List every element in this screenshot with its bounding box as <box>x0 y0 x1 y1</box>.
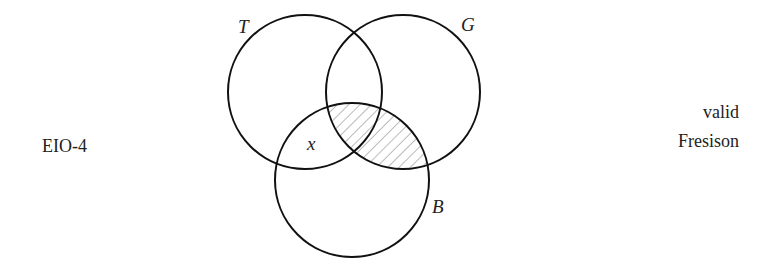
circle-label-t: T <box>238 16 250 37</box>
circle-label-b: B <box>432 196 444 217</box>
venn-diagram: T G B x EIO-4 valid Fresison <box>0 0 780 269</box>
form-label: EIO-4 <box>42 136 87 156</box>
circle-label-g: G <box>461 14 475 35</box>
verdict-mood-name: Fresison <box>678 131 739 151</box>
circle-t <box>228 15 382 169</box>
verdict-validity: valid <box>703 102 739 122</box>
venn-diagram-canvas: T G B x EIO-4 valid Fresison <box>0 0 780 269</box>
existence-mark-x: x <box>306 133 316 154</box>
